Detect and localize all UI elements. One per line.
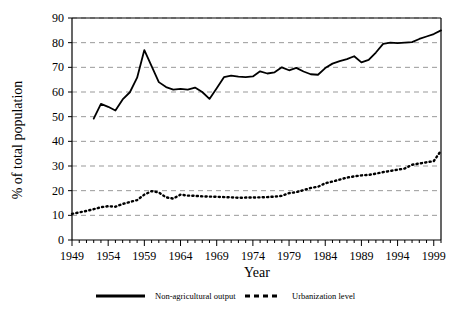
x-tick-label: 1994 bbox=[386, 249, 410, 263]
y-tick-labels: 0102030405060708090 bbox=[52, 11, 64, 247]
x-tick-label: 1984 bbox=[313, 249, 337, 263]
y-tick-label: 90 bbox=[52, 11, 64, 25]
y-axis bbox=[68, 18, 72, 240]
y-tick-label: 30 bbox=[52, 159, 64, 173]
plot-area-border bbox=[72, 18, 441, 240]
legend-label-urbanization-level: Urbanization level bbox=[292, 291, 356, 301]
x-tick-label: 1999 bbox=[422, 249, 446, 263]
legend: Non-agricultural output Urbanization lev… bbox=[96, 291, 356, 301]
x-tick-label: 1959 bbox=[132, 249, 156, 263]
x-tick-label: 1954 bbox=[96, 249, 120, 263]
x-axis bbox=[72, 240, 441, 246]
series-line-2 bbox=[72, 151, 441, 214]
x-axis-title: Year bbox=[244, 265, 270, 280]
y-tick-label: 40 bbox=[52, 134, 64, 148]
y-tick-label: 80 bbox=[52, 36, 64, 50]
grid-lines bbox=[72, 18, 441, 215]
x-tick-label: 1974 bbox=[241, 249, 265, 263]
x-tick-label: 1969 bbox=[205, 249, 229, 263]
y-tick-label: 60 bbox=[52, 85, 64, 99]
x-tick-label: 1989 bbox=[349, 249, 373, 263]
line-chart: 0102030405060708090 19491954195919641969… bbox=[0, 0, 460, 313]
y-tick-label: 70 bbox=[52, 60, 64, 74]
x-tick-labels: 1949195419591964196919741979198419891994… bbox=[60, 249, 446, 263]
chart-page: 0102030405060708090 19491954195919641969… bbox=[0, 0, 460, 313]
x-tick-label: 1949 bbox=[60, 249, 84, 263]
x-tick-label: 1979 bbox=[277, 249, 301, 263]
y-tick-label: 50 bbox=[52, 110, 64, 124]
y-tick-label: 20 bbox=[52, 184, 64, 198]
series-line-1 bbox=[94, 30, 441, 118]
legend-label-non-agricultural-output: Non-agricultural output bbox=[155, 291, 236, 301]
series-lines bbox=[72, 30, 441, 214]
x-tick-label: 1964 bbox=[169, 249, 193, 263]
y-tick-label: 0 bbox=[58, 233, 64, 247]
y-tick-label: 10 bbox=[52, 208, 64, 222]
y-axis-title: % of total population bbox=[10, 81, 25, 200]
